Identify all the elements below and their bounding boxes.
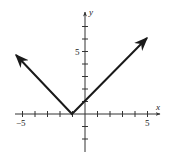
x-tick-label-5: 5 <box>145 118 150 128</box>
abs-function-line <box>16 38 147 114</box>
y-axis-label: y <box>88 7 93 17</box>
x-axis-label: x <box>155 102 160 112</box>
x-tick-label-neg5: −5 <box>16 118 26 128</box>
y-tick-label-5: 5 <box>75 47 80 57</box>
graph: x y −5 5 5 <box>0 0 172 158</box>
